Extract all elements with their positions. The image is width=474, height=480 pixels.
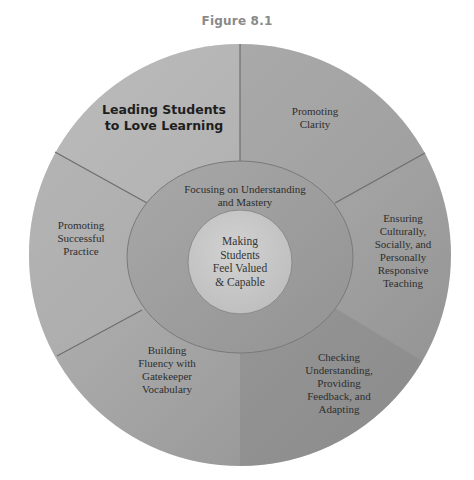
core-label: MakingStudentsFeel Valued& Capable: [213, 235, 267, 289]
segment-label-clarity: PromotingClarity: [292, 105, 338, 131]
segment-label-vocabulary: BuildingFluency withGatekeeperVocabulary: [138, 344, 196, 396]
segment-label-practice: PromotingSuccessfulPractice: [57, 219, 104, 258]
segment-label-responsive: EnsuringCulturally,Socially, andPersonal…: [375, 212, 432, 290]
ring-label: Focusing on Understandingand Mastery: [184, 183, 306, 209]
segment-label-leading: Leading Studentsto Love Learning: [102, 102, 226, 134]
segment-label-checking: CheckingUnderstanding,ProvidingFeedback,…: [305, 351, 373, 416]
